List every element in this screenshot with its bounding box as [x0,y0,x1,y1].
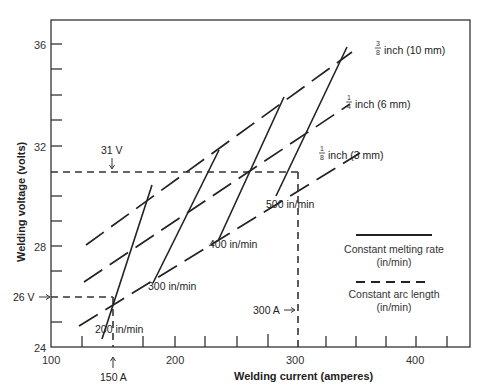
y-tick-32: 32 [34,141,46,153]
arrow-26v-icon [39,295,50,300]
x-tick-100: 100 [42,354,60,366]
label-arc-1-8: 1 8 inch (3 mm) [319,145,383,161]
svg-text:3: 3 [376,40,380,47]
label-150a: 150 A [100,371,127,383]
label-rate-200: 200 in/min [95,323,144,335]
svg-text:inch (6 mm): inch (6 mm) [355,98,410,110]
x-tick-400: 400 [406,354,424,366]
svg-text:8: 8 [320,154,324,161]
y-axis-ticks [51,44,62,322]
melting-rate-lines [102,47,347,339]
rate-500-line [276,47,347,196]
y-tick-28: 28 [34,241,46,253]
legend-dashed-label-1: Constant arc length [348,288,439,300]
y-tick-24: 24 [34,342,46,354]
svg-text:8: 8 [376,49,380,56]
arc-3-8-line [86,52,352,245]
label-31v: 31 V [101,144,123,156]
x-axis-ticks [82,334,447,347]
rate-200-line [102,185,152,339]
x-axis-title: Welding current (amperes) [234,370,373,382]
label-arc-1-4: 1 4 inch (6 mm) [346,94,410,110]
label-rate-500: 500 in/min [266,198,315,210]
label-26v: 26 V [13,291,35,303]
arc-length-lines [79,52,360,326]
rate-300-line [153,150,219,283]
y-axis-title: Welding voltage (volts) [15,141,27,262]
svg-text:1: 1 [347,94,351,101]
y-tick-36: 36 [34,39,46,51]
x-tick-200: 200 [166,354,184,366]
label-arc-3-8: 3 8 inch (10 mm) [375,40,445,56]
legend: Constant melting rate (in/min) Constant … [344,235,444,313]
x-tick-300: 300 [286,354,304,366]
svg-text:inch (10 mm): inch (10 mm) [384,44,445,56]
arrow-31v-icon [110,158,115,169]
label-300a: 300 A [253,304,280,316]
label-rate-400: 400 in/min [209,238,258,250]
arc-1-4-line [84,104,350,282]
svg-text:1: 1 [320,145,324,152]
arrow-300a-icon [284,308,295,313]
arrow-150a-icon [111,357,116,368]
legend-dashed-label-2: (in/min) [376,301,411,313]
svg-text:inch (3 mm): inch (3 mm) [328,149,383,161]
welding-chart: 36 32 28 24 100 200 300 400 Welding curr… [0,0,485,391]
legend-solid-label-2: (in/min) [376,256,411,268]
label-rate-300: 300 in/min [148,280,197,292]
legend-solid-label-1: Constant melting rate [344,243,444,255]
svg-text:4: 4 [347,103,351,110]
